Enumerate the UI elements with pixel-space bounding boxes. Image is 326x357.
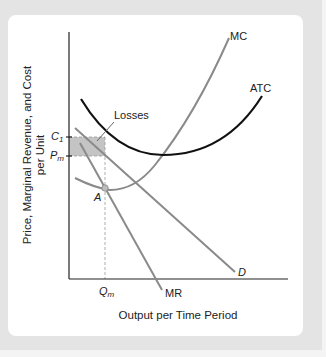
y-axis-title: Price, Marginal Revenue, and Cost per Un… [21,66,47,244]
qm-main: Q [99,285,108,297]
marginal-revenue-curve [80,143,162,290]
x-axis-title: Output per Time Period [119,309,238,321]
point-a-marker [102,185,108,191]
y-axis-title-line2: per Unit [34,66,47,244]
average-total-cost-curve [81,96,262,155]
marginal-cost-curve [75,38,229,190]
atc-label: ATC [250,82,271,94]
point-a-label: A [94,191,101,203]
mr-label: MR [165,287,182,299]
qm-tick-label: Qm [99,285,114,299]
pm-tick-label: Pm [50,149,64,163]
c1-tick-label: C1 [51,130,63,144]
losses-label: Losses [114,109,149,121]
c1-main: C [51,130,59,142]
monopoly-losses-diagram [0,0,326,357]
qm-subscript: m [108,290,115,299]
mc-label: MC [230,30,247,42]
d-label: D [238,266,246,278]
c1-subscript: 1 [59,135,63,144]
y-axis-title-line1: Price, Marginal Revenue, and Cost [21,66,34,244]
pm-subscript: m [57,154,64,163]
